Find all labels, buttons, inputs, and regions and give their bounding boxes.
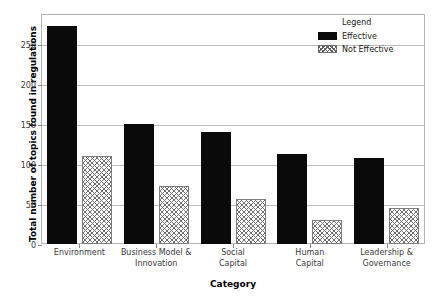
bar-effective[interactable] [124, 124, 154, 244]
y-tick-mark [38, 125, 42, 126]
bar-not-effective[interactable] [236, 199, 266, 244]
legend-label-not-effective: Not Effective [342, 45, 393, 54]
y-tick-mark [38, 165, 42, 166]
y-tick-label: 100 [21, 161, 36, 170]
legend-item-effective[interactable]: Effective [318, 31, 422, 41]
bar-not-effective[interactable] [159, 186, 189, 244]
bar-effective[interactable] [47, 26, 77, 244]
legend-label-effective: Effective [342, 32, 377, 41]
y-tick-mark [38, 245, 42, 246]
y-tick-mark [38, 85, 42, 86]
bar-not-effective[interactable] [82, 156, 112, 244]
legend-swatch-not-effective-icon [318, 45, 337, 53]
bar-effective[interactable] [354, 158, 384, 244]
x-tick-label: Business Model &Innovation [118, 248, 195, 269]
x-tick-label: Environment [41, 248, 118, 259]
y-tick-label: 150 [21, 121, 36, 130]
chart-legend: Legend Effective Not Effective [318, 18, 422, 57]
bar-not-effective[interactable] [389, 208, 419, 244]
bar-effective[interactable] [201, 132, 231, 244]
y-gridline [42, 125, 424, 126]
bar-chart-figure: Total number of topics found in regulati… [0, 0, 438, 303]
y-axis-title: Total number of topics found in regulati… [28, 19, 38, 249]
y-tick-label: 200 [21, 81, 36, 90]
bar-effective[interactable] [277, 154, 307, 244]
legend-swatch-effective-icon [318, 32, 337, 40]
y-tick-label: 250 [21, 41, 36, 50]
y-tick-label: 0 [31, 241, 36, 250]
bar-not-effective[interactable] [312, 220, 342, 244]
x-tick-label: Leadership &Governance [348, 248, 425, 269]
legend-title: Legend [342, 18, 422, 27]
y-tick-mark [38, 205, 42, 206]
x-tick-label: SocialCapital [195, 248, 272, 269]
x-axis-title: Category [41, 279, 425, 289]
legend-item-not-effective[interactable]: Not Effective [318, 44, 422, 54]
y-tick-label: 50 [26, 201, 36, 210]
x-tick-label: HumanCapital [271, 248, 348, 269]
y-tick-mark [38, 45, 42, 46]
y-gridline [42, 85, 424, 86]
